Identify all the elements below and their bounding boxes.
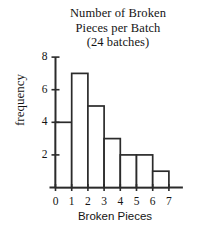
y-tick-label: 2	[34, 148, 48, 160]
histogram-bar	[72, 73, 88, 187]
y-tick-label: 4	[34, 115, 48, 127]
histogram-bar	[120, 155, 136, 188]
x-tick-label: 1	[65, 195, 79, 207]
x-tick-label: 0	[49, 195, 63, 207]
y-tick-label: 8	[34, 50, 48, 62]
histogram-bar	[88, 106, 104, 188]
histogram-bar	[137, 155, 153, 188]
x-tick-label: 7	[162, 195, 176, 207]
histogram-bar	[104, 139, 120, 188]
x-tick-label: 5	[130, 195, 144, 207]
histogram-screenshot: Number of Broken Pieces per Batch (24 ba…	[0, 0, 205, 234]
x-axis-label: Broken Pieces	[40, 210, 190, 222]
bars-group	[56, 73, 169, 187]
x-tick-label: 3	[97, 195, 111, 207]
x-tick-label: 2	[81, 195, 95, 207]
y-tick-label: 6	[34, 83, 48, 95]
histogram-bar	[153, 171, 169, 187]
x-tick-label: 6	[146, 195, 160, 207]
x-tick-label: 4	[113, 195, 127, 207]
